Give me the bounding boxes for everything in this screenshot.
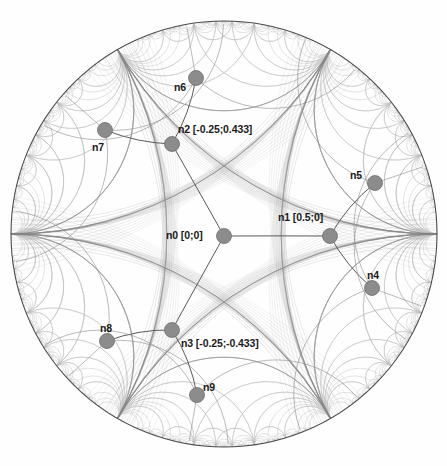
- graph-node-n4[interactable]: [365, 281, 380, 296]
- node-label-n6: n6: [174, 82, 186, 93]
- graph-node-n6[interactable]: [189, 71, 204, 86]
- hyperbolic-tessellation-canvas: [0, 0, 447, 466]
- node-label-n1: n1 [0.5;0]: [278, 212, 323, 223]
- node-label-n0: n0 [0;0]: [166, 230, 203, 241]
- graph-node-n2[interactable]: [165, 137, 180, 152]
- graph-node-n1[interactable]: [323, 229, 338, 244]
- graph-node-n3[interactable]: [165, 323, 180, 338]
- graph-node-n0[interactable]: [217, 229, 232, 244]
- node-label-n8: n8: [100, 323, 112, 334]
- node-label-n4: n4: [367, 270, 379, 281]
- graph-node-n5[interactable]: [368, 176, 383, 191]
- graph-node-n7[interactable]: [98, 123, 113, 138]
- node-label-n7: n7: [92, 142, 104, 153]
- node-label-n5: n5: [350, 170, 362, 181]
- graph-node-n8[interactable]: [100, 334, 115, 349]
- node-label-n2: n2 [-0.25;0.433]: [178, 124, 252, 135]
- node-label-n9: n9: [203, 382, 215, 393]
- node-label-n3: n3 [-0.25;-0.433]: [181, 338, 259, 349]
- poincare-disk-figure: n0 [0;0]n1 [0.5;0]n2 [-0.25;0.433]n3 [-0…: [0, 0, 447, 466]
